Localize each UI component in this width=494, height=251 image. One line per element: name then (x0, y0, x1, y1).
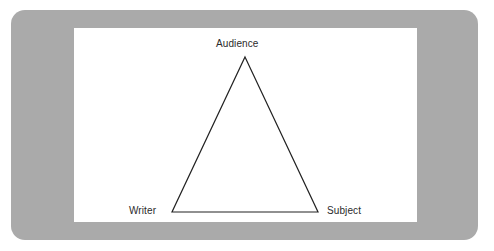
vertex-label-writer: Writer (129, 205, 156, 217)
figure-root: Audience Writer Subject (0, 0, 494, 251)
vertex-label-subject: Subject (327, 205, 361, 217)
triangle-shape (172, 57, 318, 212)
vertex-label-audience: Audience (216, 38, 259, 50)
